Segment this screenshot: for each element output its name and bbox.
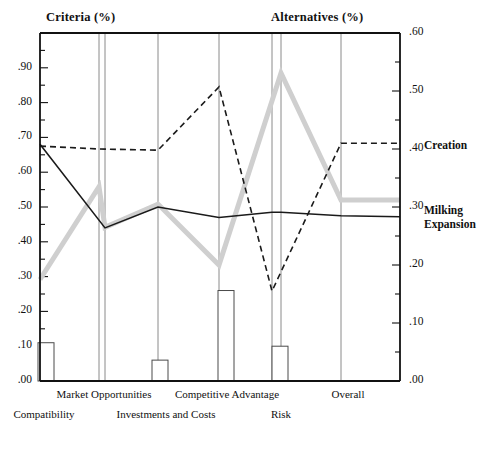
right-tick-label: .00 <box>409 373 443 385</box>
left-tick-label: .00 <box>2 373 32 385</box>
left-tick-label: .50 <box>2 199 32 211</box>
right-tick-label: .60 <box>409 25 443 37</box>
bar-competitive-advantage <box>218 291 234 381</box>
legend-milking-line1: Milking <box>424 204 463 216</box>
category-label-risk: Risk <box>271 408 291 420</box>
left-tick-label: .20 <box>2 303 32 315</box>
category-label-market-opportunities: Market Opportunities <box>56 388 151 400</box>
left-tick-label: .90 <box>2 60 32 72</box>
category-label-investments-and-costs: Investments and Costs <box>117 408 216 420</box>
right-tick-label: .50 <box>409 83 443 95</box>
category-label-overall: Overall <box>332 388 365 400</box>
category-label-compatibility: Compatibility <box>13 408 74 420</box>
left-tick-label: .10 <box>2 338 32 350</box>
bar-risk <box>272 346 288 381</box>
series-group <box>40 73 400 291</box>
series-criteria-weight <box>40 144 400 228</box>
right-tick-label: .10 <box>409 315 443 327</box>
legend-milking-line2: Expansion <box>424 218 476 230</box>
left-tick-label: .80 <box>2 95 32 107</box>
left-tick-label: .70 <box>2 129 32 141</box>
legend-label-creation: Creation <box>424 138 467 152</box>
left-tick-label: .40 <box>2 234 32 246</box>
left-tick-label: .60 <box>2 164 32 176</box>
legend-label-milking-expansion: Milking Expansion <box>424 203 488 231</box>
bar-investments-and-costs <box>152 360 168 381</box>
right-tick-label: .20 <box>409 257 443 269</box>
category-label-competitive-advantage: Competitive Advantage <box>175 388 279 400</box>
chart-root: Criteria (%) Alternatives (%) .00.10.20.… <box>0 0 492 452</box>
series-milking-expansion <box>40 73 400 279</box>
left-tick-label: .30 <box>2 269 32 281</box>
bars-group <box>38 291 288 381</box>
